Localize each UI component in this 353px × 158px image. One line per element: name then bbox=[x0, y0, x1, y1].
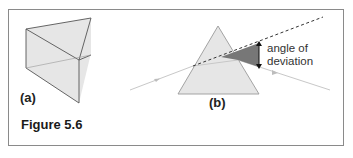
angle-of-deviation-label: angle of deviation bbox=[267, 42, 313, 68]
figure-artwork bbox=[0, 0, 353, 158]
annotation-line-1: angle of bbox=[267, 42, 313, 55]
annotation-line-2: deviation bbox=[267, 55, 313, 68]
panel-b-label: (b) bbox=[209, 95, 226, 110]
figure-caption: Figure 5.6 bbox=[21, 117, 82, 132]
panel-a-label: (a) bbox=[20, 90, 36, 105]
